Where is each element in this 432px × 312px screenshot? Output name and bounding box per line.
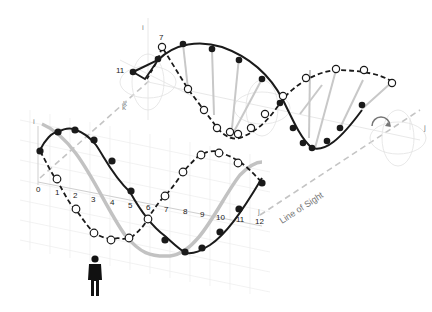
tick-5: 5 <box>128 201 133 210</box>
polarization-diagram: i k j Line of Sight i k j <box>0 0 432 312</box>
lower-axis-j-label: j <box>257 207 260 216</box>
tick-4: 4 <box>110 198 115 207</box>
upper-axis-i-label: i <box>142 23 144 32</box>
tick-11: 11 <box>236 215 245 224</box>
tick-1: 1 <box>55 188 60 197</box>
tick-9: 9 <box>200 210 205 219</box>
upper-axis-j-label: j <box>423 123 426 132</box>
upper-connectors <box>183 44 392 148</box>
upper-point-label-11: 11 <box>116 66 125 75</box>
tick-10: 10 <box>216 213 225 222</box>
line-of-sight-label: Line of Sight <box>278 190 326 226</box>
tick-8: 8 <box>183 207 188 216</box>
upper-point-label-7: 7 <box>159 33 164 42</box>
tick-0: 0 <box>36 185 41 194</box>
tick-6: 6 <box>146 203 151 212</box>
lower-axis-i-label: i <box>33 117 35 126</box>
tick-12: 12 <box>255 217 264 226</box>
tick-2: 2 <box>73 191 78 200</box>
tick-7: 7 <box>164 205 169 214</box>
tick-3: 3 <box>91 195 96 204</box>
